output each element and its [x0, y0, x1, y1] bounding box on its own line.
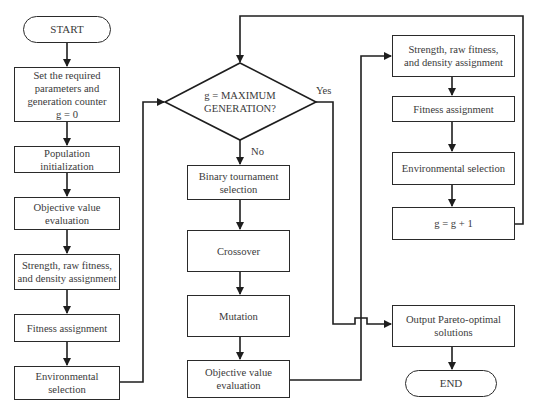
output-pareto-box: Output Pareto-optimal solutions: [392, 305, 515, 347]
strength-assignment-box-1: Strength, raw fitness, and density assig…: [14, 254, 120, 290]
start-terminal: START: [23, 16, 111, 43]
generation-increment-box: g = g + 1: [392, 207, 515, 240]
no-label: No: [251, 146, 264, 157]
binary-tournament-box: Binary tournament selection: [187, 165, 290, 200]
edge-envsel-to-decision: [120, 102, 164, 382]
yes-label: Yes: [316, 85, 331, 96]
decision-label: g = MAXIMUM GENERATION?: [185, 89, 295, 115]
fitness-assignment-box-2: Fitness assignment: [392, 96, 515, 122]
fitness-assignment-box-1: Fitness assignment: [14, 314, 120, 342]
init-parameters-box: Set the required parameters and generati…: [14, 67, 120, 122]
end-terminal: END: [405, 370, 497, 397]
edge-decision-yes: [316, 102, 391, 324]
objective-eval-box-1: Objective value evaluation: [14, 197, 120, 230]
crossover-box: Crossover: [187, 230, 290, 272]
objective-eval-box-2: Objective value evaluation: [187, 360, 290, 398]
mutation-box: Mutation: [187, 295, 290, 337]
environmental-selection-box-2: Environmental selection: [392, 152, 515, 185]
environmental-selection-box-1: Environmental selection: [14, 366, 120, 400]
strength-assignment-box-2: Strength, raw fitness, and density assig…: [392, 35, 515, 77]
population-init-box: Population initialization: [14, 146, 120, 173]
